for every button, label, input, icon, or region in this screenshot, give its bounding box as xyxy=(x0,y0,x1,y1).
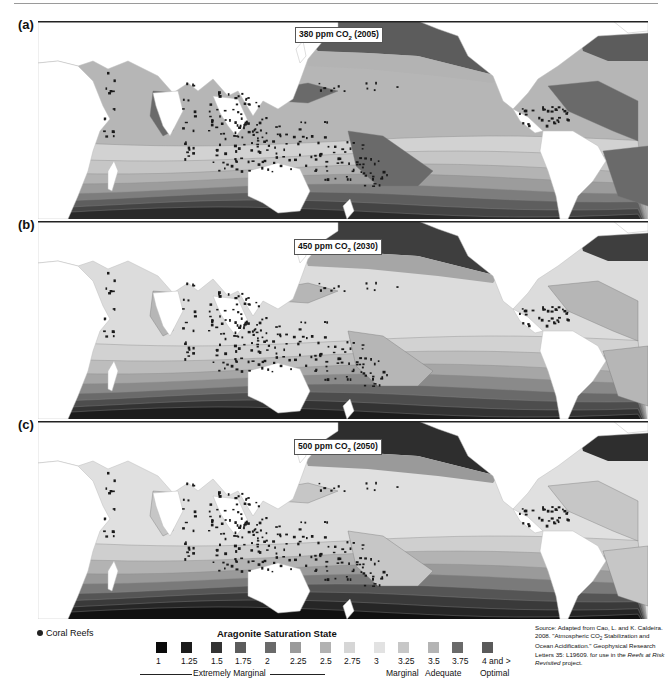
coral-reef-marker xyxy=(220,333,222,334)
legend-value: 2 xyxy=(265,656,270,666)
coral-reef-marker xyxy=(248,561,250,564)
coral-reef-marker xyxy=(107,472,109,475)
coral-reef-marker xyxy=(542,508,544,511)
coral-reef-marker xyxy=(306,137,308,139)
coral-reef-marker xyxy=(378,560,380,562)
coral-reef-marker xyxy=(110,290,113,292)
circle-dot-icon xyxy=(37,630,43,636)
coral-reef-marker xyxy=(224,568,226,570)
coral-reef-marker xyxy=(262,137,264,139)
landmass xyxy=(513,509,543,533)
coral-reef-marker xyxy=(551,311,554,313)
coral-reef-marker xyxy=(261,319,263,321)
coral-reef-marker xyxy=(333,352,335,353)
coral-reef-marker xyxy=(325,361,328,363)
coral-reef-marker xyxy=(347,578,349,581)
coral-reef-marker xyxy=(362,544,365,546)
coral-reef-marker xyxy=(225,319,227,321)
coral-reef-marker xyxy=(236,304,238,306)
coral-reef-marker xyxy=(235,135,238,137)
coral-reef-marker xyxy=(241,536,243,538)
coral-reef-marker xyxy=(267,568,269,570)
coral-reef-marker xyxy=(248,103,251,105)
coral-reef-marker xyxy=(305,565,307,567)
top-divider xyxy=(14,3,658,4)
legend-swatch xyxy=(211,642,222,653)
coral-reef-marker xyxy=(258,363,261,366)
coral-reef-marker xyxy=(247,297,249,299)
category-line-right xyxy=(270,674,325,675)
coral-reef-marker xyxy=(315,369,317,371)
coral-reef-marker xyxy=(231,365,234,368)
coral-reef-marker xyxy=(320,353,323,355)
coral-reef-marker xyxy=(383,571,386,574)
coral-reef-marker xyxy=(386,174,388,176)
coral-reef-marker xyxy=(193,147,195,150)
coral-reef-marker xyxy=(268,345,270,347)
coral-reef-marker xyxy=(314,155,316,157)
coral-reef-marker xyxy=(282,356,285,358)
coral-reef-marker xyxy=(541,319,544,322)
legend: Coral Reefs Aragonite Saturation State 1… xyxy=(0,622,672,689)
coral-reef-marker xyxy=(266,340,268,342)
coral-reef-marker xyxy=(216,109,218,111)
coral-reef-marker xyxy=(114,79,116,82)
coral-reef-marker xyxy=(113,535,115,537)
coral-reef-marker xyxy=(186,283,188,286)
coral-reef-marker xyxy=(243,526,245,529)
coral-reef-marker xyxy=(378,160,380,162)
coral-reef-marker xyxy=(248,503,251,505)
coral-reef-marker xyxy=(372,385,375,387)
coral-reef-marker xyxy=(105,535,108,537)
coral-reef-marker xyxy=(219,315,221,317)
coral-reef-marker xyxy=(272,340,275,342)
coral-reef-marker xyxy=(278,326,280,328)
coral-reef-marker xyxy=(188,349,190,351)
coral-reef-marker xyxy=(330,90,332,92)
coral-reef-marker xyxy=(103,130,106,132)
coral-reef-marker xyxy=(352,571,355,573)
coral-reef-marker xyxy=(248,161,250,164)
coral-reef-marker xyxy=(277,334,279,336)
coral-reef-marker xyxy=(279,334,281,337)
coral-reef-marker xyxy=(237,524,239,527)
coral-reef-marker xyxy=(524,510,526,512)
coral-reef-marker xyxy=(324,336,327,338)
coral-reef-marker xyxy=(238,127,241,129)
coral-reef-marker xyxy=(223,133,225,135)
coral-reef-marker xyxy=(274,547,276,549)
coral-reef-marker xyxy=(273,362,275,364)
legend-value: 3.75 xyxy=(452,656,469,666)
coral-reef-marker xyxy=(224,310,227,312)
coral-reef-marker xyxy=(285,334,288,336)
coral-reef-marker xyxy=(234,345,237,348)
coral-reef-marker xyxy=(525,314,528,316)
coral-reef-marker xyxy=(258,163,261,166)
coral-reef-marker xyxy=(379,184,381,186)
coral-reef-marker xyxy=(243,326,245,329)
coral-reef-marker xyxy=(272,171,274,172)
coral-reef-marker xyxy=(327,578,330,581)
coral-reef-marker xyxy=(240,558,243,560)
coral-reef-marker xyxy=(319,483,321,484)
coral-reef-marker xyxy=(348,362,350,365)
coral-reef-marker xyxy=(328,546,330,548)
coral-reef-marker xyxy=(272,140,275,142)
coral-reef-marker xyxy=(293,536,296,539)
coral-reef-marker xyxy=(208,530,210,531)
coral-reef-marker xyxy=(341,148,344,150)
coral-reef-marker xyxy=(324,579,326,581)
coral-reef-marker xyxy=(215,527,218,529)
coral-reef-marker xyxy=(567,319,570,322)
coral-reef-marker xyxy=(562,109,564,111)
coral-reef-marker xyxy=(110,90,113,92)
coral-reef-marker xyxy=(278,126,280,128)
coral-reef-marker xyxy=(110,490,113,492)
coral-reef-marker xyxy=(224,152,227,155)
coral-reef-marker xyxy=(326,521,328,523)
coral-reef-marker xyxy=(551,511,554,513)
coral-reef-marker xyxy=(232,309,234,310)
coral-reef-marker xyxy=(238,327,241,329)
coral-reef-marker xyxy=(352,171,355,173)
coral-reef-marker xyxy=(241,336,243,338)
